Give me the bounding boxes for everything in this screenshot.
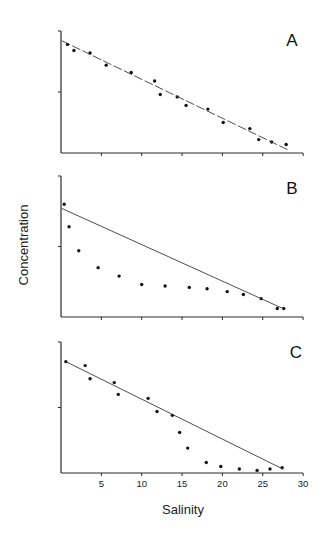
- data-point: [77, 249, 80, 252]
- salinity-concentration-figure: ABC51015202530 Salinity Concentration: [0, 0, 326, 541]
- data-point: [222, 121, 225, 124]
- chart-panels: ABC51015202530: [58, 31, 308, 489]
- data-point: [117, 393, 120, 396]
- dilution-line: [66, 362, 283, 469]
- data-point: [257, 138, 260, 141]
- data-point: [186, 446, 189, 449]
- data-point: [219, 465, 222, 468]
- data-point: [255, 469, 258, 472]
- data-point: [205, 287, 208, 290]
- data-point: [226, 290, 229, 293]
- data-point: [268, 467, 271, 470]
- data-point: [72, 49, 75, 52]
- panel-c: C51015202530: [58, 342, 308, 489]
- data-point: [63, 203, 66, 206]
- data-point: [104, 63, 107, 66]
- data-point: [117, 274, 120, 277]
- x-tick-label: 10: [136, 478, 147, 489]
- data-point: [163, 284, 166, 287]
- data-point: [113, 381, 116, 384]
- data-point: [64, 360, 67, 363]
- y-axis-title: Concentration: [16, 205, 31, 286]
- data-point: [238, 467, 241, 470]
- data-point: [242, 293, 245, 296]
- data-point: [206, 107, 209, 110]
- dilution-line: [62, 41, 290, 151]
- panel-label: B: [286, 179, 297, 198]
- x-tick-label: 15: [177, 478, 188, 489]
- x-tick-label: 20: [217, 478, 228, 489]
- x-tick-label: 25: [257, 478, 268, 489]
- data-point: [188, 286, 191, 289]
- data-point: [276, 307, 279, 310]
- data-point: [205, 461, 208, 464]
- data-point: [159, 93, 162, 96]
- data-point: [248, 127, 251, 130]
- data-point: [184, 104, 187, 107]
- data-point: [178, 431, 181, 434]
- data-point: [155, 410, 158, 413]
- x-axis-title: Salinity: [162, 502, 204, 517]
- x-tick-label: 30: [298, 478, 309, 489]
- panel-label: A: [286, 31, 298, 50]
- data-point: [146, 397, 149, 400]
- data-point: [88, 377, 91, 380]
- panel-label: C: [290, 343, 302, 362]
- data-point: [96, 266, 99, 269]
- data-point: [140, 283, 143, 286]
- panel-a: A: [58, 31, 303, 156]
- data-point: [284, 143, 287, 146]
- panel-b: B: [58, 176, 303, 320]
- data-point: [67, 225, 70, 228]
- dilution-line: [62, 208, 283, 308]
- data-point: [84, 364, 87, 367]
- x-tick-label: 5: [99, 478, 104, 489]
- data-point: [153, 79, 156, 82]
